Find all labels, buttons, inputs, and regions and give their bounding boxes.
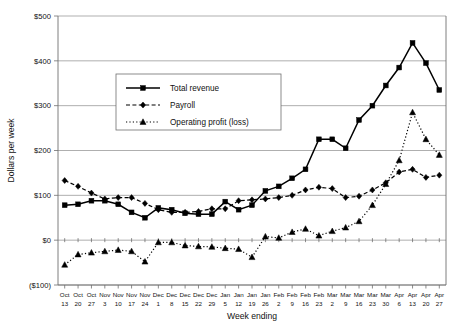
x-tick-label-month: Feb [287,291,298,298]
diamond-marker [303,187,308,193]
x-tick-label-month: Jan [247,291,258,298]
diamond-marker [423,174,428,180]
diamond-marker [437,172,442,178]
x-tick-label-month: Jan [234,291,245,298]
x-tick-label-month: Apr [394,291,404,298]
y-tick-label: $0 [43,236,51,245]
triangle-marker [115,247,121,253]
legend-label-3: Operating profit (loss) [170,118,249,127]
triangle-marker [62,262,68,268]
x-tick-label-day: 6 [397,300,401,307]
diamond-marker [209,206,214,212]
square-marker [357,118,362,123]
square-marker [263,188,268,193]
x-tick-label-month: Dec [153,291,164,298]
x-tick-label-month: Nov [113,291,125,298]
x-tick-label-month: Feb [273,291,284,298]
x-tick-label-day: 16 [356,300,363,307]
x-tick-label-day: 23 [369,300,376,307]
x-tick-label-month: Mar [380,291,391,298]
triangle-marker [249,254,255,260]
square-marker [62,203,67,208]
x-axis-title: Week ending [227,311,277,321]
y-tick-label: $300 [34,101,51,110]
y-tick-label: ($100) [29,281,51,290]
chart-container: $500$400$300$200$100$0($100)Oct13Oct20Oc… [0,0,453,333]
square-marker [116,202,121,207]
x-tick-label-day: 9 [290,300,294,307]
diamond-marker [142,200,147,206]
x-tick-label-day: 16 [302,300,309,307]
square-marker [330,137,335,142]
x-tick-label-day: 24 [142,300,149,307]
y-tick-label: $400 [34,57,51,66]
y-tick-label: $500 [34,12,51,21]
series-2 [62,166,442,215]
square-marker [397,65,402,70]
square-marker [89,198,94,203]
square-marker [370,103,375,108]
square-marker [290,176,295,181]
x-tick-label-day: 27 [436,300,443,307]
x-tick-label-day: 22 [195,300,202,307]
x-tick-label-day: 15 [182,300,189,307]
triangle-marker [262,233,268,239]
y-tick-label: $100 [34,191,51,200]
x-tick-label-day: 20 [75,300,82,307]
x-tick-label-month: Oct [87,291,97,298]
diamond-marker [356,193,361,199]
diamond-marker [410,166,415,172]
diamond-marker [249,197,254,203]
triangle-marker [423,136,429,142]
square-marker [437,88,442,93]
square-marker [209,212,214,217]
x-tick-label-day: 9 [344,300,348,307]
x-tick-label-day: 2 [277,300,281,307]
square-marker [276,184,281,189]
x-tick-label-month: Dec [180,291,191,298]
x-tick-label-day: 30 [382,300,389,307]
diamond-marker [316,184,321,190]
x-tick-label-month: Apr [434,291,444,298]
series-3 [62,109,443,267]
triangle-marker [75,251,81,257]
y-tick-label: $200 [34,146,51,155]
x-tick-label-day: 23 [315,300,322,307]
x-tick-label-day: 29 [208,300,215,307]
legend-label-1: Total revenue [170,84,220,93]
x-tick-label-day: 10 [115,300,122,307]
x-tick-label-month: Mar [354,291,365,298]
square-marker [250,203,255,208]
x-tick-label-month: Nov [126,291,138,298]
diamond-marker [62,178,67,184]
square-marker [383,83,388,88]
triangle-marker [436,152,442,158]
x-tick-label-day: 17 [128,300,135,307]
triangle-marker [369,202,375,208]
x-tick-label-day: 19 [249,300,256,307]
chart-legend: Total revenuePayrollOperating profit (lo… [116,74,281,130]
triangle-marker [410,109,416,115]
triangle-marker [236,246,242,252]
diamond-marker [223,206,228,212]
x-tick-label-month: Mar [367,291,378,298]
triangle-marker [88,250,94,256]
x-tick-label-month: Nov [139,291,151,298]
x-tick-label-day: 3 [103,300,107,307]
triangle-marker [396,157,402,163]
x-tick-label-day: 5 [224,300,228,307]
x-tick-label-month: Oct [73,291,83,298]
x-tick-label-day: 26 [262,300,269,307]
x-tick-label-day: 8 [170,300,174,307]
triangle-marker [142,258,148,264]
x-tick-label-day: 13 [409,300,416,307]
x-tick-label-month: Oct [60,291,70,298]
square-marker [76,202,81,207]
triangle-marker [356,218,362,224]
x-tick-label-month: Mar [340,291,351,298]
square-marker [343,146,348,151]
square-marker [143,215,148,220]
square-marker [303,167,308,172]
x-tick-label-month: Dec [193,291,204,298]
x-tick-label-day: 20 [422,300,429,307]
